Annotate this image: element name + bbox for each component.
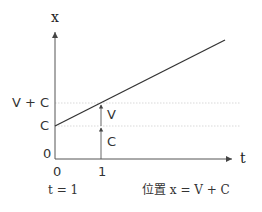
y-tick-zero: 0	[43, 147, 51, 160]
caption-time: t = 1	[48, 184, 78, 196]
caption-position: 位置 x = V + C	[142, 184, 230, 196]
x-tick-zero: 0	[53, 165, 61, 178]
position-line	[55, 40, 225, 126]
segment-label-v: V	[107, 108, 116, 121]
x-axis-label: t	[240, 151, 246, 165]
y-tick-c: C	[40, 119, 49, 132]
y-tick-v-plus-c: V + C	[12, 96, 49, 109]
x-tick-one: 1	[98, 165, 106, 178]
y-axis-label: x	[51, 10, 59, 24]
segment-label-c: C	[107, 135, 116, 148]
